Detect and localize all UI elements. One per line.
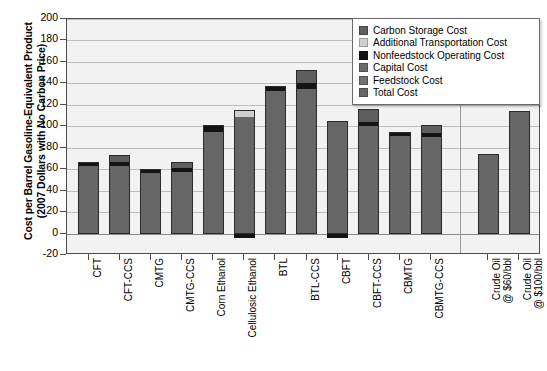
- x-tick-mark: [181, 254, 182, 260]
- y-tick-label: 0: [24, 227, 58, 237]
- bar-segment-nonfeedstock-operating-cost: [421, 133, 442, 137]
- legend: Carbon Storage CostAdditional Transporta…: [352, 18, 540, 105]
- x-tick-mark: [150, 254, 151, 260]
- legend-label: Nonfeedstock Operating Cost: [373, 50, 504, 61]
- legend-label: Additional Transportation Cost: [373, 37, 507, 48]
- bar: [140, 19, 161, 254]
- bar: [234, 19, 255, 254]
- bar-segment-total-cost: [203, 125, 224, 233]
- y-tick-label: 60: [24, 162, 58, 172]
- bar-segment-additional-transportation-cost: [234, 110, 255, 116]
- bar-segment-nonfeedstock-operating-cost: [265, 86, 286, 91]
- x-tick-label: CBFT: [341, 258, 352, 362]
- legend-swatch-icon: [359, 26, 368, 35]
- x-tick-label: CBMTG: [403, 258, 414, 362]
- legend-swatch-icon: [359, 88, 368, 97]
- bar-segment-total-cost: [171, 162, 192, 234]
- bar-segment-total-cost: [327, 121, 348, 234]
- legend-item: Carbon Storage Cost: [359, 24, 533, 37]
- x-tick-mark: [399, 254, 400, 260]
- x-tick-label: CFT: [92, 258, 103, 362]
- y-tick-label: 140: [24, 76, 58, 86]
- legend-label: Feedstock Cost: [373, 75, 442, 86]
- legend-label: Carbon Storage Cost: [373, 25, 467, 36]
- x-tick-mark: [88, 254, 89, 260]
- bar-segment-total-cost: [234, 110, 255, 233]
- y-tick-label: 40: [24, 184, 58, 194]
- bar: [265, 19, 286, 254]
- x-tick-mark: [243, 254, 244, 260]
- bar-segment-total-cost: [509, 111, 530, 233]
- bar-segment-carbon-storage-cost: [421, 125, 442, 133]
- bar: [109, 19, 130, 254]
- y-tick-label: 80: [24, 141, 58, 151]
- bar-segment-carbon-storage-cost: [296, 70, 317, 83]
- y-tick-label: 200: [24, 12, 58, 22]
- bar-segment-nonfeedstock-operating-cost-negative: [327, 234, 348, 238]
- bar-segment-nonfeedstock-operating-cost: [296, 83, 317, 88]
- bar-segment-nonfeedstock-operating-cost-negative: [234, 234, 255, 238]
- legend-item: Total Cost: [359, 87, 533, 100]
- bar-segment-nonfeedstock-operating-cost: [78, 162, 99, 166]
- x-tick-label: CBMTG-CCS: [434, 258, 445, 362]
- bar-segment-total-cost: [78, 162, 99, 234]
- y-tick-label: 100: [24, 119, 58, 129]
- x-tick-label: Cellulosic Ethanol: [247, 258, 258, 362]
- x-tick-label: BTL-CCS: [310, 258, 321, 362]
- x-tick-mark: [119, 254, 120, 260]
- x-tick-mark: [368, 254, 369, 260]
- bar: [203, 19, 224, 254]
- x-tick-label: CFT-CCS: [123, 258, 134, 362]
- chart-figure: Cost per Barrel Gasoline-Equivalent Prod…: [0, 0, 547, 371]
- bar-segment-total-cost: [478, 154, 499, 233]
- y-tick-label: 120: [24, 98, 58, 108]
- x-tick-mark: [430, 254, 431, 260]
- legend-swatch-icon: [359, 51, 368, 60]
- bar: [296, 19, 317, 254]
- legend-item: Feedstock Cost: [359, 74, 533, 87]
- x-tick-label: Corn Ethanol: [216, 258, 227, 362]
- x-tick-mark: [212, 254, 213, 260]
- y-tick-mark: [60, 254, 66, 255]
- bar-segment-total-cost: [421, 125, 442, 233]
- legend-label: Capital Cost: [373, 62, 427, 73]
- legend-label: Total Cost: [373, 87, 417, 98]
- x-tick-label: Crude Oil @ $60/bbl: [491, 258, 513, 362]
- legend-item: Nonfeedstock Operating Cost: [359, 49, 533, 62]
- bar-segment-nonfeedstock-operating-cost: [358, 122, 379, 126]
- x-tick-mark: [274, 254, 275, 260]
- bar-segment-total-cost: [296, 70, 317, 233]
- bar-segment-nonfeedstock-operating-cost: [109, 162, 130, 166]
- x-tick-label: CBFT-CCS: [372, 258, 383, 362]
- legend-swatch-icon: [359, 38, 368, 47]
- bar-segment-total-cost: [265, 86, 286, 234]
- x-tick-label: BTL: [278, 258, 289, 362]
- x-tick-mark: [487, 254, 488, 260]
- bar-segment-nonfeedstock-operating-cost: [171, 168, 192, 172]
- y-tick-label: 20: [24, 205, 58, 215]
- legend-swatch-icon: [359, 76, 368, 85]
- bar-segment-total-cost: [389, 132, 410, 234]
- x-tick-mark: [306, 254, 307, 260]
- legend-item: Additional Transportation Cost: [359, 37, 533, 50]
- bar: [78, 19, 99, 254]
- x-tick-label: Crude Oil @ $100/bbl: [522, 258, 544, 362]
- legend-item: Capital Cost: [359, 62, 533, 75]
- bar: [171, 19, 192, 254]
- bar-segment-total-cost: [140, 169, 161, 233]
- bar-segment-carbon-storage-cost: [358, 109, 379, 122]
- bar-segment-nonfeedstock-operating-cost: [140, 169, 161, 173]
- bar: [327, 19, 348, 254]
- x-tick-mark: [518, 254, 519, 260]
- x-tick-label: CMTG: [154, 258, 165, 362]
- y-tick-label: 180: [24, 33, 58, 43]
- y-tick-label: 160: [24, 55, 58, 65]
- bar-segment-total-cost: [109, 155, 130, 233]
- y-tick-label: -20: [24, 248, 58, 258]
- bar-segment-nonfeedstock-operating-cost: [389, 132, 410, 136]
- x-tick-label: CMTG-CCS: [185, 258, 196, 362]
- bar-segment-total-cost: [358, 109, 379, 233]
- legend-swatch-icon: [359, 63, 368, 72]
- x-tick-mark: [337, 254, 338, 260]
- bar-segment-nonfeedstock-operating-cost: [203, 125, 224, 131]
